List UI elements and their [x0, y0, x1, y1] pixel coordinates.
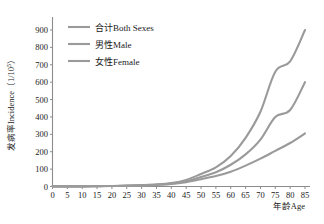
x-tick-label: 55	[212, 190, 221, 200]
series-group	[53, 30, 306, 186]
y-tick-label: 700	[35, 60, 48, 70]
x-axis-title: 年龄Age	[273, 201, 305, 211]
x-tick-label: 0	[50, 190, 54, 200]
incidence-by-age-chart: 0100200300400500600700800900 05101520253…	[0, 0, 324, 224]
y-tick-label: 400	[35, 112, 48, 122]
y-tick-label: 200	[35, 147, 48, 157]
x-tick-label: 70	[256, 190, 265, 200]
x-tick-label: 75	[271, 190, 280, 200]
x-tick-label: 30	[137, 190, 146, 200]
x-tick-label: 5	[65, 190, 69, 200]
y-tick-label: 800	[35, 42, 48, 52]
y-tick-label: 300	[35, 129, 48, 139]
x-tick-label: 10	[78, 190, 87, 200]
legend-label-2: 女性Female	[95, 56, 140, 67]
legend-label-1: 男性Male	[95, 39, 132, 50]
y-tick-label: 100	[35, 164, 48, 174]
x-tick-label: 40	[167, 190, 176, 200]
x-tick-label: 85	[301, 190, 310, 200]
y-axis-title: 发病率Incidence（1/105）	[6, 55, 16, 151]
y-tick-label: 500	[35, 95, 48, 105]
x-tick-label: 25	[123, 190, 132, 200]
series-line-2	[53, 133, 306, 186]
x-tick-label: 50	[197, 190, 206, 200]
legend-label-0: 合计Both Sexes	[95, 22, 154, 33]
chart-legend: 合计Both Sexes男性Male女性Female	[68, 22, 154, 67]
y-tick-label: 0	[44, 182, 48, 192]
x-tick-label: 80	[286, 190, 295, 200]
x-tick-label: 60	[226, 190, 235, 200]
y-tick-label: 900	[35, 25, 48, 35]
x-tick-label: 20	[108, 190, 117, 200]
y-tick-label: 600	[35, 77, 48, 87]
series-line-1	[53, 82, 306, 186]
x-tick-label: 65	[241, 190, 250, 200]
y-axis-ticks: 0100200300400500600700800900	[35, 25, 52, 192]
chart-canvas: 0100200300400500600700800900 05101520253…	[0, 0, 324, 224]
x-axis-ticks: 0510152025303540455055606570758085	[50, 187, 309, 200]
series-line-0	[53, 30, 306, 186]
x-tick-label: 35	[152, 190, 161, 200]
x-tick-label: 45	[182, 190, 191, 200]
x-tick-label: 15	[93, 190, 102, 200]
